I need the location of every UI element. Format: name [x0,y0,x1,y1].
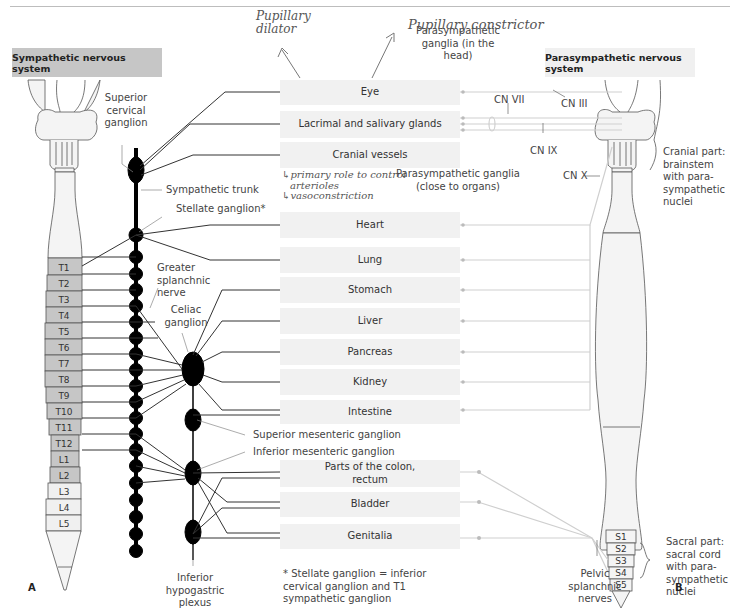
label-cn-vii: CN VII [494,94,524,107]
label-cn-iii: CN III [561,98,588,111]
label-cn-ix: CN IX [530,145,557,158]
svg-text:T7: T7 [57,359,69,369]
label-pelvic-splanchnic-nerves: Pelvic splanchnic nerves [555,568,635,606]
organ-heart: Heart [280,212,460,238]
handwritten-cranial-vessels-note: ↳primary role to control arterioles ↳vas… [282,170,406,202]
handwritten-pupillary-dilator: Pupillary dilator [256,10,311,35]
svg-text:T11: T11 [55,423,73,433]
organ-colon-rectum: Parts of the colon, rectum [280,460,460,487]
label-para-ganglia-organs: Parasympathetic ganglia (close to organs… [392,168,524,193]
svg-text:T10: T10 [55,407,73,417]
footnote-stellate: * Stellate ganglion = inferior cervical … [283,568,453,606]
para-pointers [508,90,600,556]
organ-eye: Eye [280,80,460,105]
svg-text:L3: L3 [59,487,70,497]
svg-text:S2: S2 [615,544,626,554]
panel-letter-a: A [28,582,36,593]
label-inferior-hypogastric-plexus: Inferior hypogastric plexus [150,572,240,610]
svg-text:T1: T1 [57,263,69,273]
label-superior-cervical-ganglion: Superior cervical ganglion [100,92,152,130]
superior-mesenteric-ganglion [185,409,201,431]
handwritten-arrows [278,33,394,78]
organ-stomach: Stomach [280,277,460,303]
organ-pancreas: Pancreas [280,339,460,365]
organ-lung: Lung [280,247,460,273]
svg-text:L1: L1 [59,455,70,465]
panel-letter-b: B [675,582,683,593]
parasympathetic-spinal-cord [595,80,661,608]
svg-text:T9: T9 [57,391,69,401]
svg-text:T5: T5 [57,327,69,337]
label-cn-x: CN X [563,170,588,183]
svg-text:T12: T12 [55,439,73,449]
organ-lacrimal-salivary-glands: Lacrimal and salivary glands [280,111,460,138]
organ-intestine: Intestine [280,400,460,424]
celiac-ganglion [182,352,204,386]
svg-text:T2: T2 [57,279,69,289]
organ-kidney: Kidney [280,369,460,395]
organ-cranial-vessels: Cranial vessels [280,142,460,168]
svg-text:T3: T3 [57,295,69,305]
label-greater-splanchnic-nerve: Greater splanchnic nerve [157,262,237,300]
label-inferior-mesenteric-ganglion: Inferior mesenteric ganglion [253,446,395,459]
prevertebral-ganglia [182,352,204,560]
organ-genitalia: Genitalia [280,524,460,549]
label-superior-mesenteric-ganglion: Superior mesenteric ganglion [253,429,401,442]
sympathetic-spinal-cord [28,80,100,258]
label-celiac-ganglion: Celiac ganglion [162,304,210,329]
svg-text:T6: T6 [57,343,69,353]
organ-bladder: Bladder [280,492,460,517]
svg-text:T4: T4 [57,311,69,321]
label-stellate-ganglion: Stellate ganglion* [176,203,266,216]
svg-text:L5: L5 [59,519,70,529]
label-cranial-part: Cranial part: brainstem with para-sympat… [663,146,729,209]
svg-text:T8: T8 [57,375,69,385]
svg-text:S1: S1 [615,532,626,542]
label-sympathetic-trunk: Sympathetic trunk [166,184,259,197]
svg-text:L2: L2 [59,471,70,481]
svg-text:S3: S3 [615,556,626,566]
organ-liver: Liver [280,308,460,334]
handwritten-pupillary-constrictor: Pupillary constrictor [408,18,544,32]
sympathetic-trunk [128,148,144,558]
svg-text:L4: L4 [59,503,70,513]
